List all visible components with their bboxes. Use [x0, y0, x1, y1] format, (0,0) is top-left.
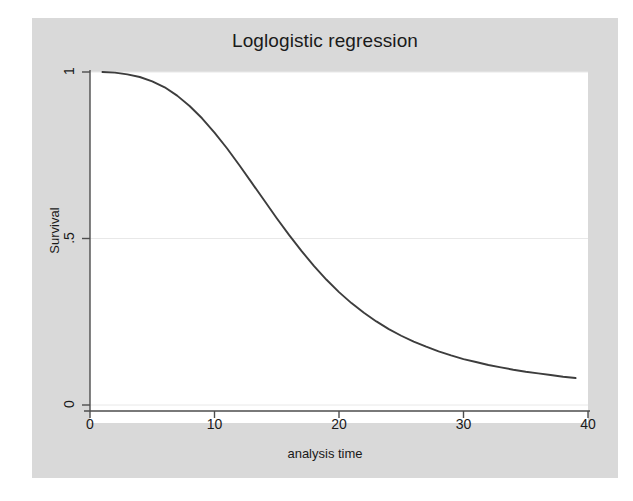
graph-canvas: Loglogistic regression 010203040 0.51 an…: [32, 18, 618, 478]
x-tick-label: 40: [571, 416, 605, 432]
y-axis-title: Survival: [47, 171, 62, 291]
y-tick-label: .5: [61, 223, 77, 253]
axes-group: [84, 70, 590, 411]
y-tick-label: 1: [61, 56, 77, 86]
survival-curve-line: [102, 72, 575, 378]
x-tick-label: 0: [73, 416, 107, 432]
x-tick-label: 20: [322, 416, 356, 432]
x-axis-title: analysis time: [32, 446, 618, 461]
ticks-group: [82, 72, 588, 418]
gridlines-group: [90, 72, 588, 405]
x-tick-label: 10: [198, 416, 232, 432]
plot-svg: [32, 18, 618, 478]
survival-curve-group: [102, 72, 575, 378]
figure-root: Loglogistic regression 010203040 0.51 an…: [0, 0, 633, 501]
y-tick-label: 0: [61, 389, 77, 419]
x-tick-label: 30: [447, 416, 481, 432]
